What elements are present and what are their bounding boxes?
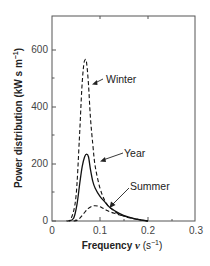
annotation-summer: Summer <box>110 180 171 208</box>
x-axis-title: Frequency ν (s−1) <box>82 239 163 251</box>
annotation-year: Year <box>100 147 146 162</box>
y-tick-label-0: 0 <box>42 215 48 226</box>
y-tick-label-600: 600 <box>31 44 48 55</box>
x-tick-label-0-3: 0.3 <box>189 225 203 236</box>
annotation-winter: Winter <box>92 73 137 85</box>
power-distribution-chart: 0 200 400 600 0 0.1 0.2 0.3 Frequency ν … <box>0 0 210 266</box>
y-axis-title: Power distribution (kW s m−1) <box>12 48 24 188</box>
label-winter: Winter <box>106 73 137 85</box>
label-summer: Summer <box>130 180 170 192</box>
y-tick-label-400: 400 <box>31 101 48 112</box>
plot-frame <box>52 16 195 221</box>
x-tick-label-0-2: 0.2 <box>141 225 155 236</box>
y-ticks <box>52 50 56 221</box>
y-tick-label-200: 200 <box>31 158 48 169</box>
x-tick-label-0: 0 <box>49 225 55 236</box>
label-year: Year <box>124 147 146 159</box>
x-tick-label-0-1: 0.1 <box>93 225 107 236</box>
